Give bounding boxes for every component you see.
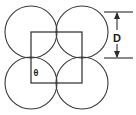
circle-packing-diagram: D θ — [0, 0, 136, 115]
diameter-label: D — [113, 32, 121, 44]
unit-cell-square — [31, 32, 82, 83]
arrowhead-down-icon — [114, 51, 120, 58]
figure-container: D θ — [0, 0, 136, 115]
angle-label: θ — [34, 68, 39, 78]
arrowhead-up-icon — [114, 12, 120, 19]
